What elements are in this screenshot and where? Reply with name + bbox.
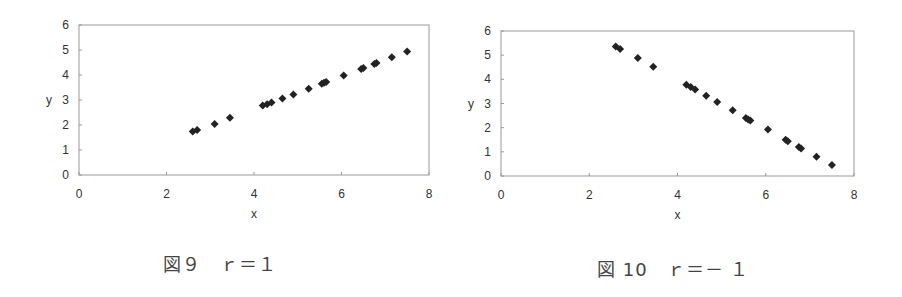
x-tick-label: 8 — [426, 187, 433, 201]
plot-area — [79, 25, 429, 175]
y-tick-label: 2 — [484, 121, 491, 135]
x-tick-label: 8 — [851, 188, 858, 202]
x-tick-label: 0 — [76, 187, 83, 201]
figure-10-scatter-chart: 012345602468xy — [451, 0, 902, 245]
y-axis-label: y — [46, 93, 52, 107]
y-tick-label: 0 — [62, 168, 69, 182]
figure-10-caption: 図 10 ｒ＝－ １ — [597, 255, 749, 281]
y-tick-label: 5 — [62, 43, 69, 57]
y-tick-label: 4 — [62, 68, 69, 82]
y-tick-label: 4 — [484, 72, 491, 86]
y-tick-label: 0 — [484, 169, 491, 183]
x-tick-label: 2 — [163, 187, 170, 201]
x-tick-label: 0 — [498, 188, 505, 202]
x-axis-label: x — [675, 208, 681, 222]
y-tick-label: 5 — [484, 48, 491, 62]
x-tick-label: 2 — [586, 188, 593, 202]
chart-svg: 012345602468xy — [451, 0, 902, 245]
figure-9-caption: 図９ ｒ＝１ — [163, 250, 277, 276]
x-tick-label: 6 — [762, 188, 769, 202]
chart-svg: 012345602468xy — [0, 0, 451, 245]
y-tick-label: 3 — [484, 97, 491, 111]
y-tick-label: 2 — [62, 118, 69, 132]
y-tick-label: 6 — [484, 24, 491, 38]
x-tick-label: 6 — [338, 187, 345, 201]
plot-area — [501, 31, 854, 176]
y-axis-label: y — [468, 97, 474, 111]
y-tick-label: 1 — [62, 143, 69, 157]
x-tick-label: 4 — [674, 188, 681, 202]
y-tick-label: 6 — [62, 18, 69, 32]
x-tick-label: 4 — [251, 187, 258, 201]
y-tick-label: 3 — [62, 93, 69, 107]
figure-9-scatter-chart: 012345602468xy — [0, 0, 451, 245]
x-axis-label: x — [251, 207, 257, 221]
y-tick-label: 1 — [484, 145, 491, 159]
